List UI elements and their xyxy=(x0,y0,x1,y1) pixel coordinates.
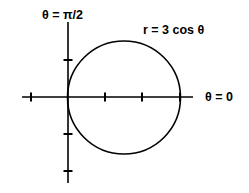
curve-equation-label: r = 3 cos θ xyxy=(143,24,204,37)
horizontal-axis-label: θ = 0 xyxy=(205,91,233,104)
vertical-axis-label: θ = π/2 xyxy=(42,9,83,22)
polar-graph-figure: θ = π/2 r = 3 cos θ θ = 0 xyxy=(0,0,249,193)
